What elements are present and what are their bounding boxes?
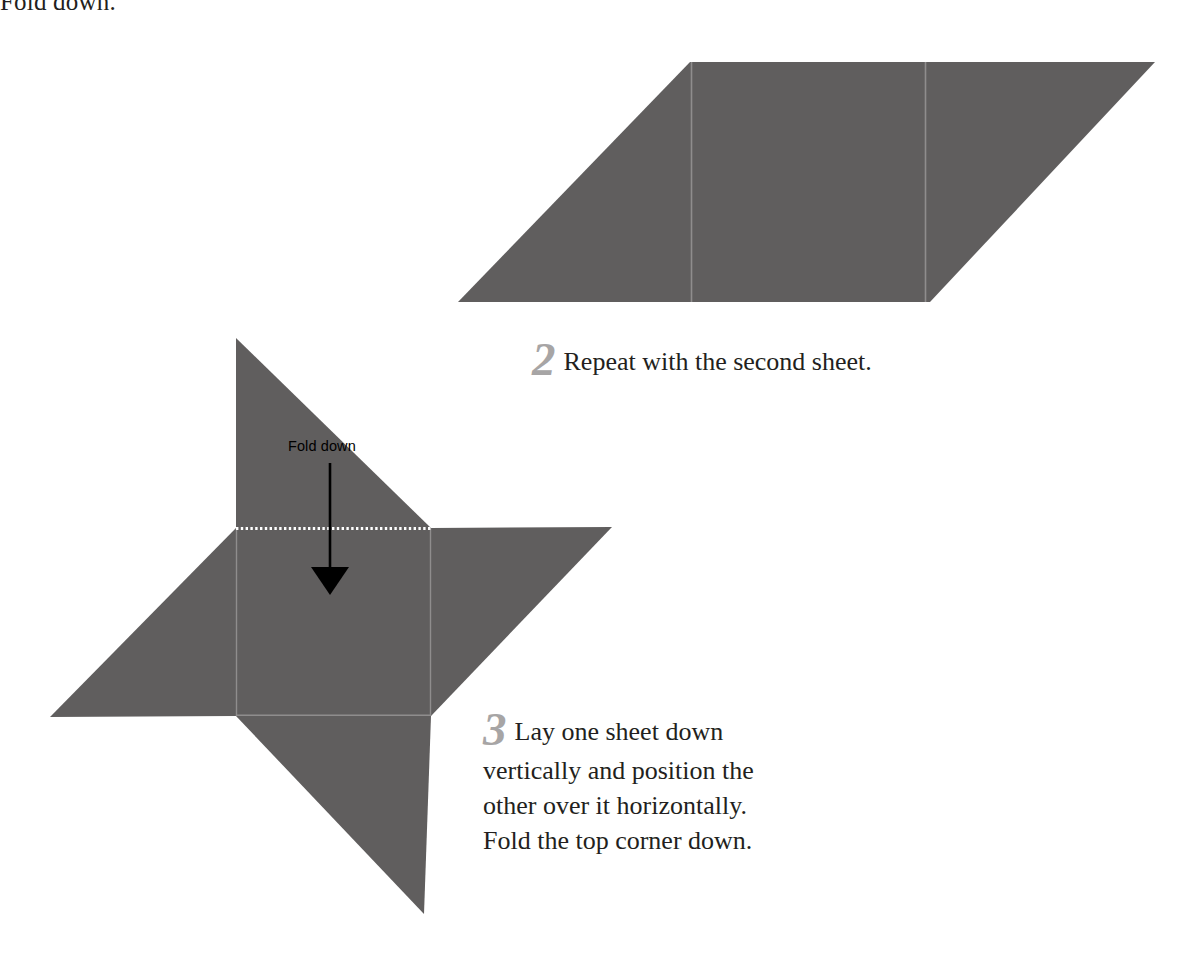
step-3-number: 3 bbox=[483, 703, 506, 755]
clipped-previous-step-caption: Fold down. bbox=[0, 0, 116, 16]
step-3: 3Lay one sheet down vertically and posit… bbox=[483, 706, 783, 858]
figure-parallelogram bbox=[458, 62, 1155, 302]
step-2-text: Repeat with the second sheet. bbox=[564, 347, 872, 376]
pinwheel-point-left bbox=[50, 528, 236, 717]
step-2: 2Repeat with the second sheet. bbox=[532, 336, 1092, 383]
pinwheel-point-right bbox=[431, 527, 612, 716]
instruction-sheet: Fold down. Fold down 2Repeat with the se… bbox=[0, 0, 1198, 953]
step-3-text: Lay one sheet down vertically and positi… bbox=[483, 717, 754, 855]
fold-down-label: Fold down bbox=[288, 438, 356, 454]
pinwheel-point-top bbox=[236, 338, 431, 528]
pinwheel-center-square bbox=[236, 528, 431, 716]
pinwheel-point-bottom bbox=[236, 716, 431, 914]
parallelogram-body bbox=[458, 62, 1155, 302]
step-2-number: 2 bbox=[532, 333, 555, 385]
